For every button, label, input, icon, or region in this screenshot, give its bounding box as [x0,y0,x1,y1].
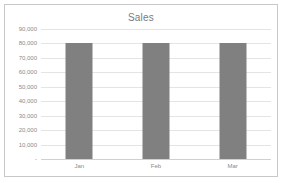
bar[interactable] [219,43,246,159]
bar-group: Mar [194,29,271,159]
plot-area: 90,00080,00070,00060,00050,00040,00030,0… [41,29,271,159]
chart-container[interactable]: Sales 90,00080,00070,00060,00050,00040,0… [4,4,278,177]
x-axis-tick-label: Feb [118,163,195,169]
bar-group: Jan [41,29,118,159]
y-axis-tick-label: 30,000 [19,113,37,119]
x-axis-tick-label: Jan [41,163,118,169]
x-axis-tick-label: Mar [194,163,271,169]
bar[interactable] [142,43,169,159]
bar-group: Feb [118,29,195,159]
y-axis-tick-label: 10,000 [19,142,37,148]
bar[interactable] [66,43,93,159]
bar-series: JanFebMar [41,29,271,159]
y-axis-tick-label: 60,000 [19,69,37,75]
y-axis-tick-label: 80,000 [19,40,37,46]
chart-title: Sales [5,12,277,23]
y-axis-tick-label: 40,000 [19,98,37,104]
y-axis-tick-label: - [35,156,37,162]
y-axis-tick-label: 90,000 [19,26,37,32]
y-axis-tick-label: 70,000 [19,55,37,61]
y-axis-tick-label: 50,000 [19,84,37,90]
gridline [41,159,271,160]
y-axis-tick-label: 20,000 [19,127,37,133]
